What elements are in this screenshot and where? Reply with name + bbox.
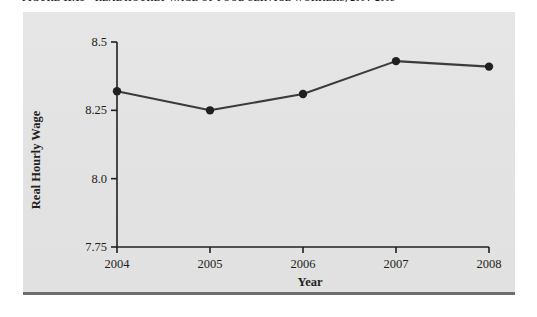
figure-container: FIGURE 11.13REAL HOURLY WAGE OF FOOD SER… — [0, 0, 537, 317]
x-axis-tick-label: 2005 — [198, 257, 223, 272]
y-axis-tick-label: 8.0 — [59, 171, 107, 186]
y-axis-title: Real Hourly Wage — [29, 111, 44, 209]
figure-caption: FIGURE 11.13REAL HOURLY WAGE OF FOOD SER… — [22, 0, 522, 7]
x-axis-tick-label: 2004 — [105, 257, 130, 272]
y-axis-tick-label: 8.5 — [59, 35, 107, 50]
x-axis-tick-label: 2006 — [291, 257, 316, 272]
x-axis-tick-label: 2008 — [477, 257, 502, 272]
figure-caption-text: REAL HOURLY WAGE OF FOOD SERVICE WORKERS… — [95, 0, 395, 3]
y-axis-tick-label: 7.75 — [59, 240, 107, 255]
y-axis-tick-label: 8.25 — [59, 103, 107, 118]
x-axis-tick-label: 2007 — [384, 257, 409, 272]
x-axis-title: Year — [298, 275, 323, 290]
bottom-rule — [23, 292, 515, 295]
figure-number: FIGURE 11.13 — [22, 0, 85, 3]
